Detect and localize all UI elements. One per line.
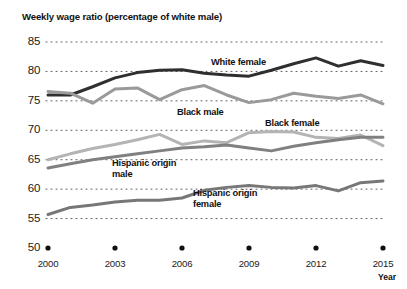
series-line-black-male <box>48 86 383 104</box>
y-tick-label-60: 60 <box>14 182 40 194</box>
y-tick-label-65: 65 <box>14 153 40 165</box>
wage-ratio-line-chart: Weekly wage ratio (percentage of white m… <box>0 0 407 289</box>
x-axis-title: Year <box>366 272 407 282</box>
x-tick-dot-2006 <box>179 245 184 250</box>
y-tick-label-80: 80 <box>14 64 40 76</box>
x-tick-dot-2015 <box>380 245 385 250</box>
series-label-white-female: White female <box>211 57 266 68</box>
series-label-hispanic-origin: Hispanic origin male <box>112 158 176 179</box>
x-tick-dot-2012 <box>313 245 318 250</box>
series-label-hispanic-origin: Hispanic origin female <box>193 188 257 209</box>
series-label-black-female: Black female <box>265 118 319 129</box>
x-tick-label-2006: 2006 <box>161 258 203 269</box>
y-tick-label-85: 85 <box>14 35 40 47</box>
x-tick-dot-2009 <box>246 245 251 250</box>
x-tick-label-2009: 2009 <box>228 258 270 269</box>
y-tick-label-55: 55 <box>14 212 40 224</box>
plot-area <box>0 0 407 289</box>
x-tick-label-2012: 2012 <box>295 258 337 269</box>
y-tick-label-70: 70 <box>14 123 40 135</box>
x-tick-label-2015: 2015 <box>362 258 404 269</box>
x-tick-dot-2000 <box>45 245 50 250</box>
y-tick-label-75: 75 <box>14 94 40 106</box>
x-tick-label-2000: 2000 <box>27 258 69 269</box>
x-tick-label-2003: 2003 <box>94 258 136 269</box>
series-label-black-male: Black male <box>177 107 224 118</box>
x-tick-dots-group <box>45 245 385 250</box>
y-tick-label-50: 50 <box>14 241 40 253</box>
x-tick-dot-2003 <box>112 245 117 250</box>
